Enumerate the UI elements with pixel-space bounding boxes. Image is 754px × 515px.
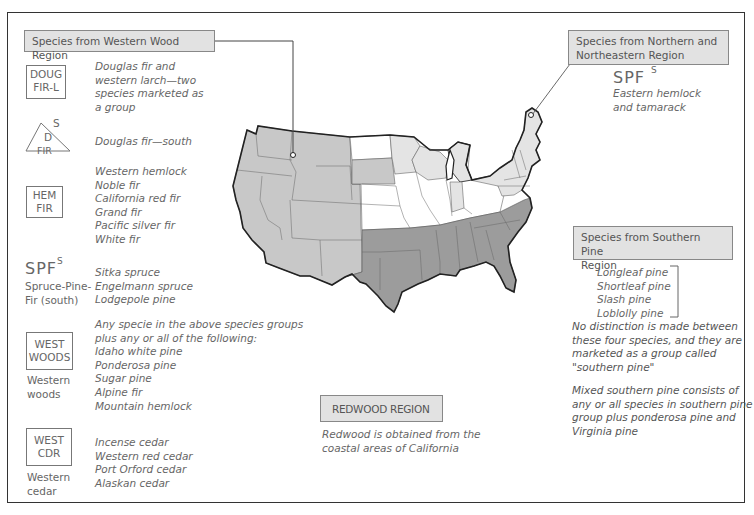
doug-fir-l-symbol: DOUG FIR-L <box>26 65 66 99</box>
species-line: Alpine fir <box>95 386 303 400</box>
species-line: Any specie in the above species groups <box>95 318 303 332</box>
map-western-region <box>233 126 362 285</box>
northern-species: Eastern hemlock and tamarack <box>613 87 701 114</box>
symbol-line: HEM <box>27 189 62 202</box>
symbol-superscript: S <box>651 65 658 75</box>
caption-line: Fir (south) <box>25 294 91 308</box>
symbol-line: DOUG <box>27 68 65 81</box>
title-line: Northeastern Region <box>576 48 721 62</box>
northern-connector-line <box>532 64 570 115</box>
west-woods-species: Any specie in the above species groups p… <box>95 318 303 413</box>
species-line: Alaskan cedar <box>95 477 193 491</box>
species-line: Idaho white pine <box>95 345 303 359</box>
species-line: Sugar pine <box>95 372 303 386</box>
species-line: Mountain hemlock <box>95 400 303 414</box>
southern-species: Longleaf pine Shortleaf pine Slash pine … <box>597 266 671 320</box>
dfir-symbol-d: D <box>44 131 52 145</box>
text-line: Redwood is obtained from the <box>322 428 481 442</box>
species-line: Douglas fir and <box>95 60 204 74</box>
caption-line: Western <box>27 374 70 388</box>
west-cdr-caption: Western cedar <box>27 471 70 498</box>
note-line: No distinction is made between <box>572 320 742 334</box>
west-cdr-species: Incense cedar Western red cedar Port Orf… <box>95 436 193 490</box>
symbol-line: WEST <box>27 434 71 447</box>
symbol-text: SPF <box>25 259 57 278</box>
species-line: plus any or all of the following: <box>95 332 303 346</box>
text-line: coastal areas of California <box>322 442 481 456</box>
southern-region-title: Species from Southern Pine Region <box>573 226 733 260</box>
species-line: Port Orford cedar <box>95 463 193 477</box>
western-connector-dot <box>291 153 296 158</box>
hem-fir-species: Western hemlock Noble fir California red… <box>95 165 187 247</box>
doug-fir-l-species: Douglas fir and western larch—two specie… <box>95 60 204 114</box>
species-line: Western red cedar <box>95 450 193 464</box>
species-line: Slash pine <box>597 293 671 307</box>
species-line: Ponderosa pine <box>95 359 303 373</box>
species-line: a group <box>95 101 204 115</box>
species-line: Sitka spruce <box>95 266 193 280</box>
species-line: Pacific silver fir <box>95 219 187 233</box>
dfir-symbol-fir: FIR <box>37 144 52 158</box>
note-line: Mixed southern pine consists of <box>572 384 753 398</box>
note-line: any or all species in southern pine <box>572 398 753 412</box>
spf-south-caption: Spruce-Pine- Fir (south) <box>25 280 91 307</box>
note-line: "southern pine" <box>572 361 742 375</box>
western-region-title: Species from Western Wood Region <box>24 30 215 52</box>
note-line: group plus ponderosa pine and <box>572 411 753 425</box>
caption-line: cedar <box>27 485 70 499</box>
caption-line: Western <box>27 471 70 485</box>
symbol-line: WOODS <box>27 351 72 364</box>
species-line: White fir <box>95 233 187 247</box>
map-indiana <box>450 182 464 212</box>
spf-south-species: Sitka spruce Engelmann spruce Lodgepole … <box>95 266 193 307</box>
southern-pine-bracket <box>670 266 678 317</box>
species-line: Engelmann spruce <box>95 280 193 294</box>
species-line: Loblolly pine <box>597 307 671 321</box>
title-line: Species from Northern and <box>576 34 721 48</box>
caption-line: Spruce-Pine- <box>25 280 91 294</box>
map-south-dakota <box>352 158 395 184</box>
species-line: species marketed as <box>95 87 204 101</box>
species-line: and tamarack <box>613 101 701 115</box>
symbol-line: CDR <box>27 447 71 460</box>
dfir-symbol-s: S <box>53 117 60 131</box>
southern-note-mixed: Mixed southern pine consists of any or a… <box>572 384 753 438</box>
species-line: Eastern hemlock <box>613 87 701 101</box>
caption-line: woods <box>27 388 70 402</box>
species-line: Longleaf pine <box>597 266 671 280</box>
species-line: Incense cedar <box>95 436 193 450</box>
symbol-line: FIR-L <box>27 81 65 94</box>
title-line: Species from Southern Pine <box>581 230 725 258</box>
redwood-text: Redwood is obtained from the coastal are… <box>322 428 481 455</box>
hem-fir-symbol: HEM FIR <box>26 186 63 218</box>
note-line: Virginia pine <box>572 425 753 439</box>
note-line: these four species, and they are <box>572 334 742 348</box>
species-line: Grand fir <box>95 206 187 220</box>
west-cdr-symbol: WEST CDR <box>26 428 72 466</box>
species-line: Western hemlock <box>95 165 187 179</box>
symbol-superscript: S <box>57 256 64 266</box>
southern-note-distinction: No distinction is made between these fou… <box>572 320 742 374</box>
note-line: marketed as a group called <box>572 347 742 361</box>
redwood-region-title: REDWOOD REGION <box>320 395 443 422</box>
northern-connector-dot <box>529 113 534 118</box>
northern-region-title: Species from Northern and Northeastern R… <box>568 30 729 65</box>
spf-south-symbol: SPFS <box>25 259 64 278</box>
symbol-line: FIR <box>27 202 62 215</box>
west-woods-symbol: WEST WOODS <box>26 332 73 370</box>
dfir-species: Douglas fir—south <box>95 135 192 149</box>
symbol-line: WEST <box>27 338 72 351</box>
west-woods-caption: Western woods <box>27 374 70 401</box>
symbol-text: SPF <box>613 68 645 87</box>
northern-spf-symbol: SPF S <box>613 68 658 87</box>
species-line: western larch—two <box>95 74 204 88</box>
species-line: Noble fir <box>95 179 187 193</box>
species-line: Lodgepole pine <box>95 293 193 307</box>
species-line: California red fir <box>95 192 187 206</box>
species-line: Shortleaf pine <box>597 280 671 294</box>
